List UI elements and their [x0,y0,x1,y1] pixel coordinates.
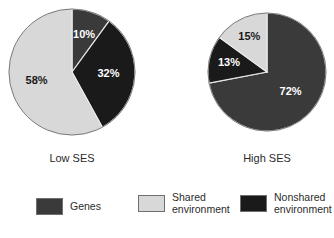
legend-swatch-genes [36,198,63,215]
pie-label-low-nonshared: 32% [97,67,119,79]
legend-label-genes: Genes [70,201,101,213]
pie-label-low-genes: 10% [73,28,95,40]
pie-label-high-genes: 72% [280,85,302,97]
pie-low-ses-svg: 10% 32% 58% [8,8,136,136]
legend-label-shared-environment: Shared environment [172,192,230,215]
legend-item-nonshared-environment[interactable]: Nonshared environment [240,192,332,215]
pie-label-high-nonshared: 13% [218,56,240,68]
pie-label-low-shared: 58% [26,74,48,86]
legend-item-shared-environment[interactable]: Shared environment [138,192,230,215]
legend-swatch-nonshared-environment [240,195,267,212]
legend-label-nonshared-environment: Nonshared environment [274,192,332,215]
pie-label-high-shared: 15% [238,30,260,42]
pie-chart-high-ses: 72% 13% 15% [207,12,327,132]
pie-chart-figure: 10% 32% 58% Low SES 72% 13% 15% High SES… [0,0,334,238]
pie-chart-low-ses: 10% 32% 58% [8,8,136,136]
pie-high-ses-svg: 72% 13% 15% [207,12,327,132]
pie-caption-high-ses: High SES [217,152,317,164]
pie-high-ses-slices [208,13,326,131]
pie-caption-low-ses: Low SES [22,152,122,164]
legend-swatch-shared-environment [138,195,165,212]
legend-item-genes[interactable]: Genes [36,198,101,215]
chart-legend: Genes Shared environment Nonshared envir… [0,192,334,226]
